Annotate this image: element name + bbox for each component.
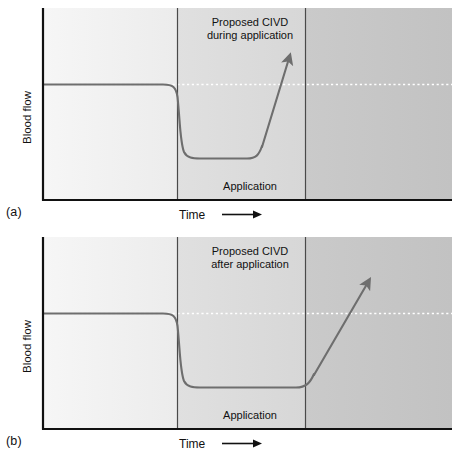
panel-b-y-axis-label: Blood flow xyxy=(21,320,33,373)
band-post-application xyxy=(305,8,452,200)
panel-a-annotation-line2: during application xyxy=(207,29,293,41)
panel-a-y-axis-label: Blood flow xyxy=(21,91,33,144)
panel-b-band-label: Application xyxy=(190,409,310,421)
panel-a-annotation-line1: Proposed CIVD xyxy=(212,16,288,28)
panel-b-annotation: Proposed CIVDafter application xyxy=(190,245,310,271)
panel-a-band-label: Application xyxy=(190,180,310,192)
band-post-application xyxy=(305,237,452,429)
figure-container: Proposed CIVDduring application Applicat… xyxy=(0,0,462,458)
time-axis-arrow-head-icon xyxy=(253,211,262,219)
panel-a: Proposed CIVDduring application Applicat… xyxy=(0,0,462,229)
time-axis-arrow-head-icon xyxy=(253,440,262,448)
panel-b-annotation-line2: after application xyxy=(211,258,289,270)
panel-a-annotation: Proposed CIVDduring application xyxy=(190,16,310,42)
band-pre-application xyxy=(43,8,177,200)
panel-a-letter: (a) xyxy=(6,205,22,219)
panel-b-letter: (b) xyxy=(6,434,22,448)
panel-a-x-axis-label: Time xyxy=(179,208,205,222)
panel-b: Proposed CIVDafter application Applicati… xyxy=(0,229,462,458)
panel-b-annotation-line1: Proposed CIVD xyxy=(212,245,288,257)
band-pre-application xyxy=(43,237,177,429)
panel-b-x-axis-label: Time xyxy=(179,437,205,451)
